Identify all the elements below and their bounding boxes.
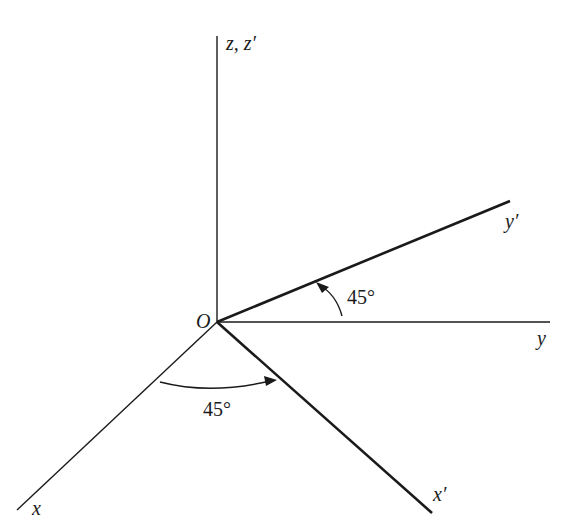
y-axis-label: y: [535, 327, 546, 350]
lower-angle-arrowhead: [264, 376, 277, 386]
y-prime-axis-label: y′: [503, 210, 519, 233]
origin-label: O: [196, 310, 210, 332]
lower-angle-label: 45°: [203, 398, 231, 420]
x-prime-axis: [217, 322, 432, 513]
upper-angle-label: 45°: [347, 286, 375, 308]
coordinate-rotation-diagram: z, z′ O y′ y x x′ 45° 45°: [0, 0, 572, 530]
x-axis: [17, 322, 217, 510]
lower-angle-arc: [160, 381, 270, 388]
z-axis-label: z, z′: [225, 32, 257, 54]
x-axis-label: x: [31, 497, 41, 519]
x-prime-axis-label: x′: [432, 483, 447, 505]
